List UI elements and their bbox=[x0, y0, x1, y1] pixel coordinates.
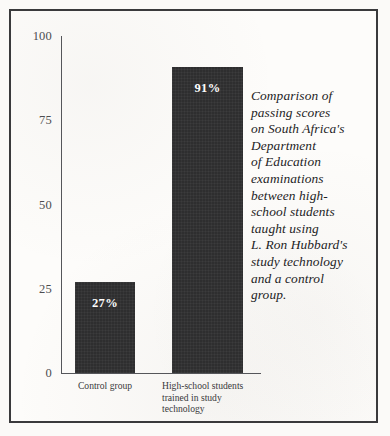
chart-caption: Comparison of passing scores on South Af… bbox=[251, 88, 373, 304]
chart-plot-area: 0 25 50 75 100 27% Control group 91% Hig… bbox=[61, 36, 261, 374]
y-tick-label-0: 0 bbox=[46, 366, 52, 381]
y-tick-label-75: 75 bbox=[39, 113, 52, 128]
caption-line: Comparison of bbox=[251, 88, 373, 105]
figure-page: 0 25 50 75 100 27% Control group 91% Hig… bbox=[0, 0, 390, 436]
caption-line: study technology bbox=[251, 254, 373, 271]
caption-line: and a control bbox=[251, 271, 373, 288]
category-label-line: Control group bbox=[78, 380, 132, 391]
bar-high-school-students[interactable]: 91% bbox=[172, 67, 243, 373]
category-label-control-group: Control group bbox=[47, 380, 163, 392]
caption-line: Department bbox=[251, 138, 373, 155]
y-axis-line bbox=[61, 36, 62, 374]
caption-line: on South Africa's bbox=[251, 121, 373, 138]
category-label-line: High-school students bbox=[162, 380, 254, 392]
bar-control-group[interactable]: 27% bbox=[75, 282, 135, 373]
y-tick-label-100: 100 bbox=[33, 29, 52, 44]
caption-line: between high- bbox=[251, 188, 373, 205]
caption-line: L. Ron Hubbard's bbox=[251, 237, 373, 254]
caption-line: group. bbox=[251, 287, 373, 304]
caption-line: school students bbox=[251, 204, 373, 221]
x-axis-line bbox=[61, 373, 261, 374]
caption-line: examinations bbox=[251, 171, 373, 188]
bar-value-high-school-students: 91% bbox=[172, 81, 243, 96]
category-label-high-school-students: High-school students trained in study te… bbox=[162, 380, 254, 415]
y-tick-label-25: 25 bbox=[39, 281, 52, 296]
caption-line: of Education bbox=[251, 154, 373, 171]
y-tick-label-50: 50 bbox=[39, 197, 52, 212]
category-label-line: trained in study bbox=[162, 392, 254, 404]
bar-value-control-group: 27% bbox=[75, 296, 135, 311]
category-label-line: technology bbox=[162, 403, 254, 415]
caption-line: passing scores bbox=[251, 105, 373, 122]
caption-line: taught using bbox=[251, 221, 373, 238]
